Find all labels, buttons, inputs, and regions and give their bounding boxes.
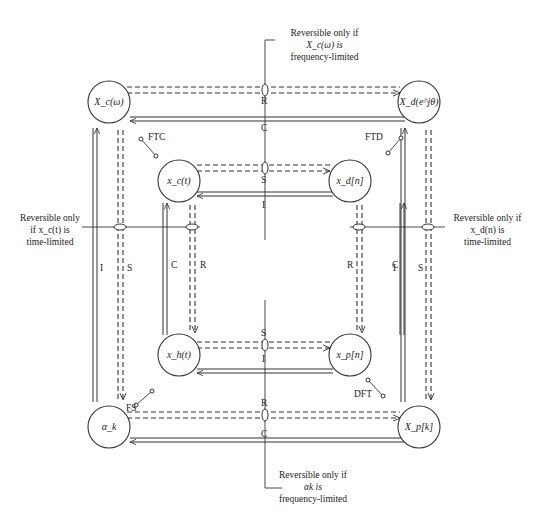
label-inner-top-i: I xyxy=(262,200,265,210)
svg-text:X_p[k]: X_p[k] xyxy=(404,421,433,432)
label-inner-left-r: R xyxy=(200,260,207,270)
edge-outer-right-sampling xyxy=(426,130,431,400)
svg-text:x_p[n]: x_p[n] xyxy=(335,349,363,360)
note-top: Reversible only if X_c(ω) is frequency-l… xyxy=(272,27,377,63)
node-outer-bottom-left: α_k xyxy=(88,406,130,448)
node-inner-bottom-right: x_p[n] xyxy=(329,334,371,376)
node-outer-top-right: X_d(e^jθ) xyxy=(398,81,440,123)
label-outer-bottom-r: R xyxy=(261,398,268,408)
ftc-label: FTC xyxy=(148,132,165,142)
fs-switch-icon xyxy=(134,389,154,407)
node-inner-top-left: x_c(t) xyxy=(158,160,200,202)
callout-top-line xyxy=(262,40,275,240)
label-inner-right-c: C xyxy=(392,260,398,270)
node-outer-top-left: X_c(ω) xyxy=(88,81,130,123)
svg-text:x_h(t): x_h(t) xyxy=(166,349,192,361)
edge-outer-left-inverse xyxy=(93,128,97,402)
edge-outer-bottom-continuous xyxy=(130,438,405,442)
edge-outer-top-continuous xyxy=(130,117,405,121)
svg-text:X_c(ω): X_c(ω) xyxy=(93,96,124,108)
label-inner-bottom-i: I xyxy=(262,354,265,364)
label-outer-top-r: R xyxy=(261,96,268,106)
ftd-switch-icon xyxy=(386,136,403,155)
note-left: Reversible only if x_c(t) is time-limite… xyxy=(10,212,90,248)
label-inner-top-s: S xyxy=(261,175,266,185)
edge-inner-left-continuous xyxy=(163,203,167,335)
label-outer-left-i: I xyxy=(100,263,103,273)
fs-label: FS xyxy=(126,403,137,413)
svg-text:x_d[n]: x_d[n] xyxy=(335,175,363,186)
callout-right-line xyxy=(350,224,445,230)
label-outer-left-s: S xyxy=(127,263,132,273)
label-inner-right-r: R xyxy=(347,260,354,270)
label-inner-left-c: C xyxy=(171,260,177,270)
note-bottom: Reversible only if αk is frequency-limit… xyxy=(258,469,368,505)
note-right: Reversible only if x_d(n) is time-limite… xyxy=(440,212,535,248)
svg-text:x_c(t): x_c(t) xyxy=(166,175,191,187)
transform-relationship-diagram: FTC FTD FS DFT R C R C I S I S S I S I C… xyxy=(0,0,535,529)
callout-left-line xyxy=(82,224,200,230)
svg-text:X_d(e^jθ): X_d(e^jθ) xyxy=(398,96,439,108)
ftd-label: FTD xyxy=(365,132,383,142)
label-inner-bottom-s: S xyxy=(261,328,266,338)
dft-label: DFT xyxy=(354,389,372,399)
node-inner-top-right: x_d[n] xyxy=(329,160,371,202)
label-outer-bottom-c: C xyxy=(261,429,267,439)
edge-outer-left-sampling xyxy=(118,130,123,400)
node-inner-bottom-left: x_h(t) xyxy=(158,334,200,376)
label-outer-right-s: S xyxy=(418,263,423,273)
label-outer-top-c: C xyxy=(261,123,267,133)
svg-text:α_k: α_k xyxy=(102,421,117,432)
node-outer-bottom-right: X_p[k] xyxy=(398,406,440,448)
